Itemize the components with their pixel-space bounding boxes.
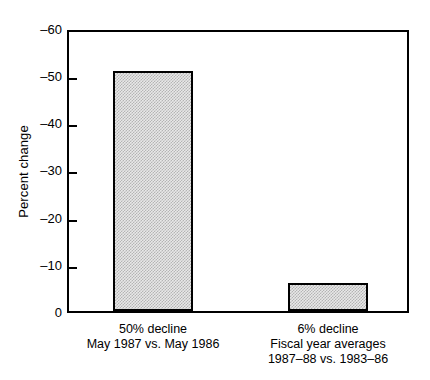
y-tick-label: –20 bbox=[18, 212, 62, 226]
bar-6-percent-decline[interactable] bbox=[288, 283, 368, 311]
y-tick-label: –10 bbox=[18, 259, 62, 273]
y-tick-label: –40 bbox=[18, 117, 62, 131]
x-category-label-2-line-2: Fiscal year averages bbox=[248, 337, 408, 352]
x-category-label-2: 6% decline Fiscal year averages 1987–88 … bbox=[248, 322, 408, 367]
y-tick-label: 0 bbox=[18, 306, 62, 320]
y-tick-mark bbox=[69, 220, 77, 222]
x-category-label-2-line-3: 1987–88 vs. 1983–86 bbox=[248, 352, 408, 367]
y-tick-mark bbox=[69, 172, 77, 174]
bar-chart-figure: Percent change –60 –50 –40 –30 –20 –10 0… bbox=[0, 0, 430, 380]
y-tick-label: –60 bbox=[18, 23, 62, 37]
y-tick-mark bbox=[69, 125, 77, 127]
bar-50-percent-decline[interactable] bbox=[113, 71, 193, 311]
y-tick-label: –30 bbox=[18, 164, 62, 178]
x-category-label-1: 50% decline May 1987 vs. May 1986 bbox=[73, 322, 233, 352]
plot-area bbox=[67, 30, 409, 313]
x-category-label-2-line-1: 6% decline bbox=[248, 322, 408, 337]
y-tick-mark bbox=[69, 78, 77, 80]
y-tick-label: –50 bbox=[18, 70, 62, 84]
x-category-label-1-line-2: May 1987 vs. May 1986 bbox=[73, 337, 233, 352]
x-category-label-1-line-1: 50% decline bbox=[73, 322, 233, 337]
y-tick-mark bbox=[69, 267, 77, 269]
